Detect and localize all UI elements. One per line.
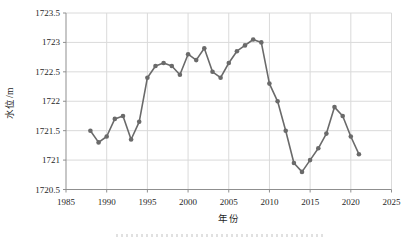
data-point	[129, 137, 134, 142]
y-tick-label: 1722	[42, 96, 60, 106]
data-point	[308, 158, 313, 163]
data-point	[153, 64, 158, 69]
data-point	[104, 134, 109, 139]
data-point	[349, 134, 354, 139]
data-point	[202, 46, 207, 51]
y-tick-label: 1720.5	[35, 185, 60, 195]
data-point	[340, 114, 345, 119]
data-point	[145, 75, 150, 80]
x-tick-label: 2020	[342, 197, 361, 207]
data-point	[210, 70, 215, 75]
data-point	[121, 114, 126, 119]
data-point	[227, 61, 232, 66]
data-point	[324, 131, 329, 136]
data-point	[283, 128, 288, 133]
chart-figure: 1985199019952000200520102015202020251720…	[0, 0, 408, 238]
y-tick-label: 1721	[42, 155, 60, 165]
y-axis-title: 水位/m	[2, 58, 16, 148]
data-point	[218, 75, 223, 80]
x-tick-label: 2015	[301, 197, 320, 207]
x-tick-label: 1990	[98, 197, 117, 207]
y-tick-label: 1723.5	[35, 8, 60, 18]
data-point	[332, 105, 337, 110]
x-tick-label: 1985	[57, 197, 76, 207]
data-point	[259, 40, 264, 45]
data-point	[292, 161, 297, 166]
data-point	[178, 73, 183, 78]
data-point	[170, 64, 175, 69]
data-point	[251, 37, 256, 42]
data-point	[88, 128, 93, 133]
data-point	[243, 43, 248, 48]
x-axis-title: 年份	[66, 211, 392, 225]
data-point	[316, 146, 321, 151]
data-point	[235, 49, 240, 54]
x-tick-label: 2000	[179, 197, 198, 207]
cutoff-caption-remnant	[116, 234, 326, 237]
data-point	[275, 99, 280, 104]
y-tick-label: 1721.5	[35, 126, 60, 136]
data-point	[194, 58, 199, 63]
x-tick-label: 1995	[138, 197, 157, 207]
data-line	[90, 40, 359, 172]
y-tick-label: 1723	[42, 37, 61, 47]
data-point	[137, 120, 142, 125]
data-point	[96, 140, 101, 145]
chart-canvas: 1985199019952000200520102015202020251720…	[0, 0, 408, 238]
data-point	[300, 170, 305, 175]
y-tick-label: 1722.5	[35, 67, 60, 77]
x-tick-label: 2010	[260, 197, 279, 207]
data-point	[357, 152, 362, 157]
x-tick-label: 2025	[383, 197, 402, 207]
data-point	[267, 81, 272, 86]
x-tick-label: 2005	[220, 197, 239, 207]
data-point	[161, 61, 166, 66]
data-point	[113, 117, 118, 122]
data-point	[186, 52, 191, 57]
